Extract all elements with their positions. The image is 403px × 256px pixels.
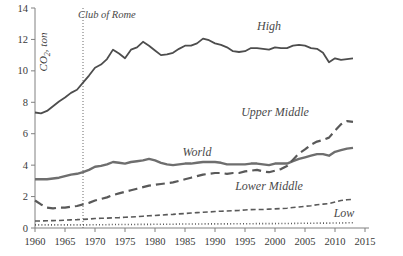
annotation-layer: Club of Rome xyxy=(78,8,136,228)
y-tick-label: 8 xyxy=(23,97,28,108)
x-tick-label: 2010 xyxy=(325,236,346,247)
y-tick-label: 0 xyxy=(23,223,28,234)
y-axis-title-label: CO2, ton xyxy=(37,32,52,71)
x-tick-label: 1975 xyxy=(115,236,136,247)
x-tick-label: 2005 xyxy=(295,236,316,247)
series-line-high xyxy=(35,39,353,114)
x-tick-label: 1985 xyxy=(175,236,196,247)
x-tick-label: 1995 xyxy=(235,236,256,247)
y-tick-label: 12 xyxy=(18,34,29,45)
x-tick-label: 1970 xyxy=(85,236,106,247)
y-tick-label: 10 xyxy=(18,65,29,76)
series-label-world: World xyxy=(183,145,213,159)
y-axis-title-main: CO xyxy=(37,56,49,71)
club-of-rome-annotation-label: Club of Rome xyxy=(78,9,136,20)
chart-plot-area: 02468101214 1960196519701975198019851990… xyxy=(0,0,403,256)
y-tick-label: 2 xyxy=(23,191,28,202)
y-axis-title: CO2, ton xyxy=(37,32,52,71)
series-label-upper-middle: Upper Middle xyxy=(241,105,309,119)
y-tick-label: 14 xyxy=(18,3,29,14)
series-label-high: High xyxy=(256,19,281,33)
y-axis-title-unit: , ton xyxy=(37,32,49,52)
series-label-lower-middle: Lower Middle xyxy=(234,179,303,193)
x-axis: 1960196519701975198019851990199520002005… xyxy=(25,228,376,247)
x-tick-label: 1965 xyxy=(55,236,76,247)
x-tick-label: 1990 xyxy=(205,236,226,247)
x-tick-label: 1980 xyxy=(145,236,166,247)
y-tick-label: 6 xyxy=(23,128,28,139)
x-tick-label: 2015 xyxy=(355,236,376,247)
series-label-low: Low xyxy=(333,206,355,220)
y-tick-label: 4 xyxy=(23,160,29,171)
y-axis: 02468101214 xyxy=(18,3,36,234)
x-tick-label: 1960 xyxy=(25,236,46,247)
co2-per-capita-line-chart: 02468101214 1960196519701975198019851990… xyxy=(0,0,403,256)
x-tick-label: 2000 xyxy=(265,236,286,247)
series-line-lower-middle xyxy=(35,199,353,221)
